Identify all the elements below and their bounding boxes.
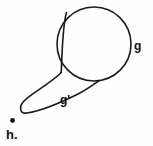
label-h: h. xyxy=(6,127,18,142)
label-g: g xyxy=(134,39,141,53)
point-h-dot xyxy=(10,118,15,123)
circle-curve-g xyxy=(57,7,131,81)
label-g-prime: g' xyxy=(60,93,70,107)
figure-canvas: g g' h. xyxy=(0,0,153,146)
curve-diagram-svg: g g' h. xyxy=(0,0,153,146)
